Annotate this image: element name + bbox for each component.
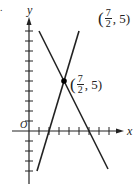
corner-label-fraction: 7 2 [105,8,112,29]
intersection-point-label: ( 7 2 , 5) [70,74,102,95]
point-label-rest: , 5) [85,77,102,93]
point-label-denominator: 2 [77,85,84,95]
x-axis-arrow-icon [116,129,124,134]
corner-point-label: ( 7 2 , 5) [98,8,130,29]
line-increasing [37,31,79,171]
intersection-point [61,78,67,84]
y-axis-label: y [27,4,32,16]
y-axis-arrow-icon [27,17,32,25]
origin-label: O [20,120,27,130]
point-label-fraction: 7 2 [77,74,84,95]
point-label-open-paren: ( [70,76,76,93]
corner-label-rest: , 5) [113,11,130,27]
x-axis-label: x [127,125,132,137]
corner-label-denominator: 2 [105,19,112,29]
y-axis [25,17,33,184]
corner-label-open-paren: ( [98,10,104,27]
